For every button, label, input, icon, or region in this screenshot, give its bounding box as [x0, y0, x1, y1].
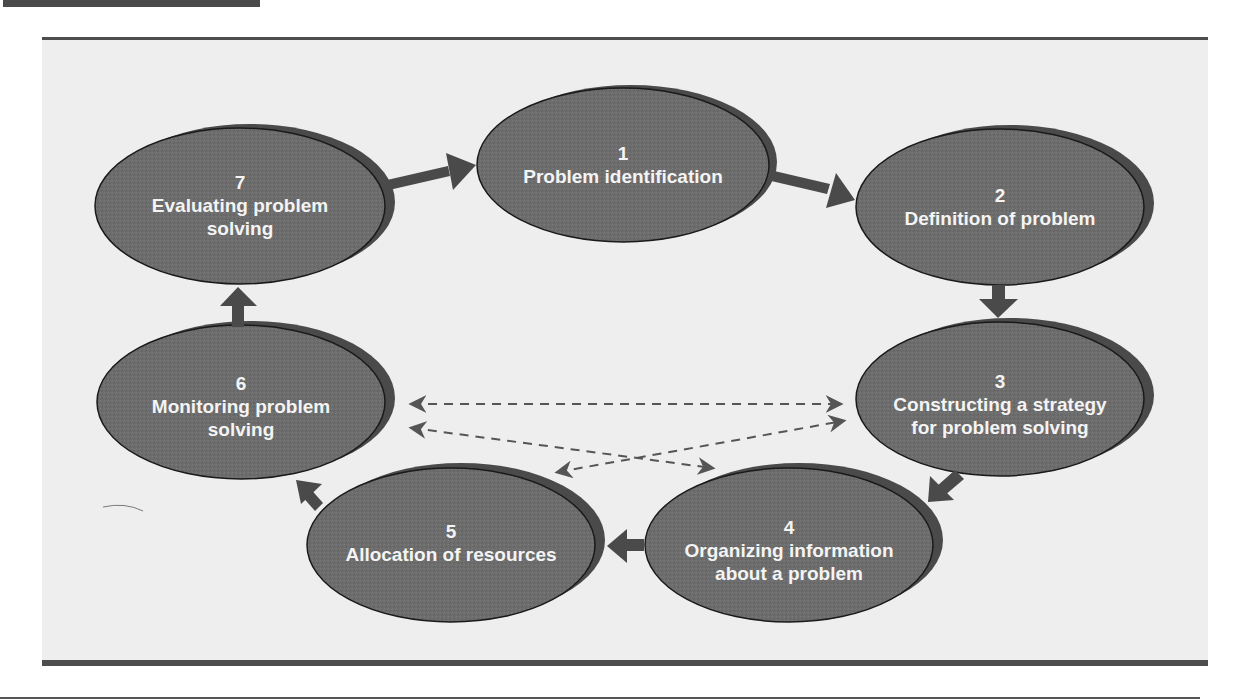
- arrow-1-to-2-icon: [767, 170, 855, 208]
- node-ellipse: [95, 128, 385, 284]
- stray-mark-icon: [103, 505, 143, 511]
- node-5-allocation-of-resources: [307, 463, 605, 622]
- node-ellipse: [645, 468, 933, 622]
- node-1-problem-identification: [477, 85, 777, 242]
- arrow-2-to-3-icon: [979, 285, 1018, 318]
- node-ellipse: [97, 325, 385, 479]
- node-4-organizing-information: [645, 463, 943, 622]
- node-2-definition-of-problem: [856, 125, 1154, 285]
- arrow-5-to-6-icon: [296, 480, 323, 511]
- problem-solving-cycle-diagram: [0, 0, 1249, 700]
- arrow-4-to-5-icon: [607, 529, 644, 563]
- arrow-6-to-7-icon: [220, 287, 257, 327]
- node-6-monitoring-problem-solving: [97, 321, 395, 479]
- arrow-3-to-4-icon: [928, 470, 964, 502]
- node-ellipse: [477, 88, 769, 242]
- arrow-7-to-1-icon: [387, 153, 476, 190]
- node-ellipse: [307, 468, 595, 622]
- dashed-arrows: [412, 404, 843, 472]
- node-3-constructing-strategy: [856, 318, 1154, 476]
- dashed-arrow-6-4-icon: [412, 428, 712, 468]
- node-ellipse: [856, 322, 1144, 476]
- node-7-evaluating-problem-solving: [95, 124, 395, 284]
- node-ellipse: [856, 129, 1144, 285]
